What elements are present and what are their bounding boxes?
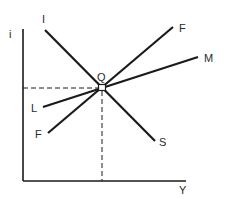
ff-curve-start-label: F bbox=[35, 128, 42, 140]
diagram-canvas: i Y I S F F L M Q bbox=[0, 0, 227, 199]
lm-curve-start-label: L bbox=[31, 102, 37, 114]
y-axis-label: i bbox=[9, 28, 11, 40]
lm-curve bbox=[43, 57, 198, 107]
is-curve-end-label: S bbox=[159, 136, 166, 148]
lm-curve-end-label: M bbox=[204, 52, 213, 64]
is-curve-start-label: I bbox=[42, 13, 45, 25]
equilibrium-label: Q bbox=[97, 71, 106, 83]
ff-curve bbox=[48, 27, 173, 133]
equilibrium-point-marker bbox=[99, 85, 106, 91]
ff-curve-end-label: F bbox=[179, 22, 186, 34]
x-axis-label: Y bbox=[179, 184, 187, 196]
